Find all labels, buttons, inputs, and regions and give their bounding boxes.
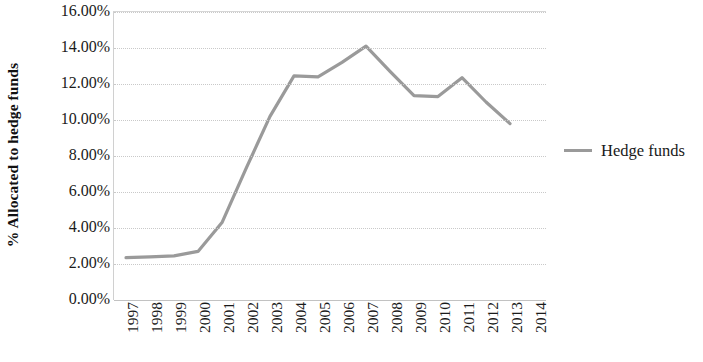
gridline — [114, 156, 546, 157]
x-axis-tick-label: 2003 — [257, 300, 281, 360]
legend-entry-label: Hedge funds — [601, 142, 685, 159]
chart-figure: % Allocated to hedge funds 16.00%14.00%1… — [0, 0, 703, 362]
y-axis-tick-label: 14.00% — [24, 39, 110, 55]
x-axis-tick-label: 2005 — [305, 300, 329, 360]
y-axis-title: % Allocated to hedge funds — [0, 0, 26, 310]
x-axis-tick-labels: 1997199819992000200120022003200420052006… — [113, 300, 545, 362]
gridline — [114, 264, 546, 265]
gridline — [114, 84, 546, 85]
series-line-hedge-funds — [126, 46, 510, 258]
x-axis-tick-label: 2001 — [209, 300, 233, 360]
gridline — [114, 48, 546, 49]
y-axis-tick-labels: 16.00%14.00%12.00%10.00%8.00%6.00%4.00%2… — [24, 0, 110, 362]
y-axis-tick-label: 16.00% — [24, 3, 110, 19]
x-axis-tick-label: 2004 — [281, 300, 305, 360]
x-axis-tick-label: 2010 — [425, 300, 449, 360]
gridline — [114, 228, 546, 229]
x-axis-tick-label: 2014 — [521, 300, 545, 360]
x-axis-tick-label: 2007 — [353, 300, 377, 360]
gridline — [114, 192, 546, 193]
x-axis-tick-label: 2012 — [473, 300, 497, 360]
x-axis-tick-label: 1999 — [161, 300, 185, 360]
y-axis-tick-label: 0.00% — [24, 291, 110, 307]
x-axis-tick-label: 1998 — [137, 300, 161, 360]
y-axis-tick-label: 4.00% — [24, 219, 110, 235]
y-axis-tick-label: 6.00% — [24, 183, 110, 199]
x-axis-tick-label: 2002 — [233, 300, 257, 360]
y-axis-tick-label: 10.00% — [24, 111, 110, 127]
y-axis-tick-label: 12.00% — [24, 75, 110, 91]
x-axis-tick-label: 2006 — [329, 300, 353, 360]
y-axis-title-text: % Allocated to hedge funds — [4, 63, 22, 247]
x-axis-tick-label: 2009 — [401, 300, 425, 360]
gridline — [114, 12, 546, 13]
x-axis-tick-label: 1997 — [113, 300, 137, 360]
gridline — [114, 120, 546, 121]
legend-color-swatch — [564, 149, 592, 152]
x-axis-tick-label: 2013 — [497, 300, 521, 360]
x-axis-tick-label: 2008 — [377, 300, 401, 360]
legend: Hedge funds — [564, 142, 685, 159]
y-axis-tick-label: 2.00% — [24, 255, 110, 271]
x-axis-tick-label-text: 2014 — [533, 302, 549, 333]
x-axis-tick-label: 2000 — [185, 300, 209, 360]
x-axis-tick-label: 2011 — [449, 300, 473, 360]
y-axis-tick-label: 8.00% — [24, 147, 110, 163]
plot-area — [113, 11, 546, 300]
